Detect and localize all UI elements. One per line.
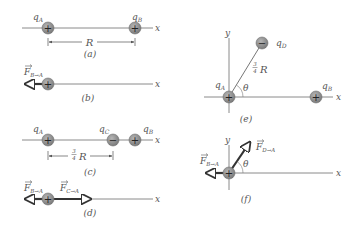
x-axis-label: x (155, 135, 160, 145)
force-label-c-to-a: FC→A (59, 181, 79, 194)
svg-text:FB→A: FB→A (23, 67, 43, 78)
svg-text:3: 3 (72, 148, 76, 154)
qa-label: qA (33, 124, 44, 135)
panel-e: x y θ + − + qA qD qB 3 4 R (e) (204, 28, 341, 124)
force-label-d-to-a: FD→A (255, 140, 275, 153)
force-label-b-to-a: FB→A (23, 65, 43, 78)
qb-label: qB (322, 81, 333, 92)
charge-qa: + (42, 193, 54, 205)
distance-r-label: R (85, 37, 94, 48)
plus-sign: + (225, 92, 233, 103)
caption-a: (a) (84, 49, 97, 59)
force-label-b-to-a: FB→A (23, 181, 43, 194)
charge-qa: + (42, 78, 54, 90)
charge-qc: − (107, 134, 119, 146)
x-axis-label: x (336, 168, 341, 178)
svg-text:4: 4 (252, 68, 257, 74)
charge-qa: + (223, 91, 235, 103)
distance-three-quarter-r-label: 3 4 R (252, 61, 268, 75)
x-axis-label: x (336, 92, 341, 102)
charge-qb: + (129, 22, 141, 34)
plus-sign: + (312, 92, 320, 103)
caption-f: (f) (241, 194, 252, 204)
minus-sign: − (258, 38, 266, 49)
charge-qa: + (42, 134, 54, 146)
svg-text:3: 3 (253, 61, 257, 67)
svg-text:FD→A: FD→A (255, 142, 275, 153)
y-axis-label: y (224, 28, 231, 38)
panel-f: x y θ + FB→A FD→A (f) (199, 135, 341, 204)
charge-qb: + (310, 91, 322, 103)
charge-qd: − (256, 37, 268, 49)
svg-text:FB→A: FB→A (23, 183, 43, 194)
x-axis-label: x (155, 194, 160, 204)
qb-label: qB (132, 12, 143, 23)
svg-text:FB→A: FB→A (199, 156, 219, 167)
caption-c: (c) (84, 167, 97, 177)
y-axis-label: y (224, 135, 231, 145)
qd-label: qD (276, 38, 287, 49)
charge-qa: + (42, 22, 54, 34)
caption-b: (b) (82, 93, 95, 103)
qa-label: qA (33, 12, 44, 23)
plus-sign: + (131, 135, 139, 146)
minus-sign: − (109, 135, 117, 146)
svg-text:R: R (78, 151, 87, 162)
force-label-b-to-a: FB→A (199, 154, 219, 167)
x-axis-label: x (155, 79, 160, 89)
angle-arc (236, 85, 243, 97)
qa-label: qA (215, 80, 226, 91)
panel-c: x + − + qA qC qB 3 4 R (c) (22, 124, 160, 177)
plus-sign: + (131, 23, 139, 34)
caption-e: (e) (240, 114, 253, 124)
qb-label: qB (143, 124, 154, 135)
panel-d: x + FB→A FC→A (d) (23, 181, 160, 219)
plus-sign: + (44, 135, 52, 146)
svg-text:FC→A: FC→A (59, 183, 79, 194)
qc-label: qC (99, 124, 110, 135)
plus-sign: + (225, 168, 233, 179)
coulomb-force-diagram: x + + qA qB R (a) x + FB→A (b) (0, 0, 356, 229)
svg-text:R: R (259, 64, 268, 75)
plus-sign: + (44, 23, 52, 34)
plus-sign: + (44, 194, 52, 205)
svg-text:4: 4 (71, 155, 76, 161)
caption-d: (d) (84, 208, 97, 218)
charge-qb: + (129, 134, 141, 146)
panel-b: x + FB→A (b) (23, 65, 160, 104)
panel-a: x + + qA qB R (a) (22, 12, 160, 59)
x-axis-label: x (155, 23, 160, 33)
theta-label: θ (243, 159, 249, 169)
plus-sign: + (44, 79, 52, 90)
theta-label: θ (243, 83, 249, 93)
charge-qa: + (223, 167, 235, 179)
distance-three-quarter-r-label: 3 4 R (71, 148, 87, 162)
